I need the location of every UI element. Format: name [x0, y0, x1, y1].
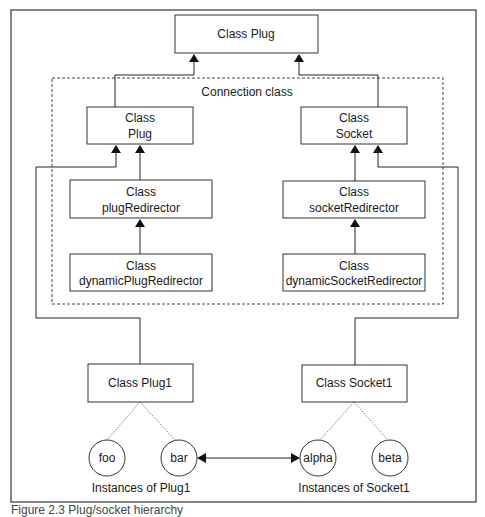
- class-plug1[interactable]: Class Plug1: [88, 364, 193, 402]
- instance-alpha[interactable]: alpha: [300, 440, 336, 476]
- instances-plug1-label: Instances of Plug1: [92, 481, 191, 495]
- class-plug[interactable]: Class Plug: [87, 107, 193, 144]
- instance-foo[interactable]: foo: [89, 440, 125, 476]
- svg-text:Class: Class: [339, 111, 369, 125]
- svg-text:Class Plug: Class Plug: [217, 27, 274, 41]
- arrowhead-left-icon: [197, 453, 206, 463]
- instance-link-bar: [140, 402, 175, 440]
- class-plug-redirector[interactable]: Class plugRedirector: [70, 180, 212, 218]
- svg-text:beta: beta: [378, 451, 402, 465]
- svg-text:Class: Class: [339, 185, 369, 199]
- instance-link-beta: [354, 402, 388, 440]
- connection-class-label: Connection class: [201, 85, 292, 99]
- instance-beta[interactable]: beta: [372, 440, 408, 476]
- svg-text:alpha: alpha: [303, 451, 333, 465]
- class-dynamic-socket-redirector[interactable]: Class dynamicSocketRedirector: [283, 254, 425, 291]
- svg-text:Class: Class: [126, 259, 156, 273]
- instance-link-alpha: [320, 402, 354, 440]
- svg-text:Class Plug1: Class Plug1: [108, 376, 172, 390]
- instances-socket1-label: Instances of Socket1: [298, 481, 410, 495]
- svg-text:Class Socket1: Class Socket1: [316, 376, 393, 390]
- svg-text:socketRedirector: socketRedirector: [309, 201, 399, 215]
- svg-text:bar: bar: [170, 451, 187, 465]
- svg-text:Class: Class: [339, 259, 369, 273]
- instance-bar[interactable]: bar: [161, 440, 197, 476]
- svg-text:Plug: Plug: [128, 127, 152, 141]
- svg-text:plugRedirector: plugRedirector: [102, 201, 180, 215]
- svg-text:dynamicPlugRedirector: dynamicPlugRedirector: [79, 274, 203, 288]
- svg-text:Class: Class: [125, 111, 155, 125]
- figure-caption: Figure 2.3 Plug/socket hierarchy: [11, 503, 183, 517]
- class-plug-top[interactable]: Class Plug: [175, 15, 318, 53]
- arrowhead-right-icon: [291, 453, 300, 463]
- svg-text:dynamicSocketRedirector: dynamicSocketRedirector: [286, 274, 423, 288]
- class-socket-redirector[interactable]: Class socketRedirector: [283, 181, 425, 218]
- class-dynamic-plug-redirector[interactable]: Class dynamicPlugRedirector: [70, 254, 212, 291]
- class-socket1[interactable]: Class Socket1: [302, 365, 407, 402]
- instance-link-foo: [107, 402, 140, 440]
- class-socket[interactable]: Class Socket: [301, 107, 407, 144]
- svg-text:Socket: Socket: [336, 127, 373, 141]
- inherit-arrow-socket-to-top: [299, 55, 378, 107]
- svg-text:foo: foo: [99, 451, 116, 465]
- svg-text:Class: Class: [126, 185, 156, 199]
- inherit-arrow-plug-to-top: [115, 55, 194, 107]
